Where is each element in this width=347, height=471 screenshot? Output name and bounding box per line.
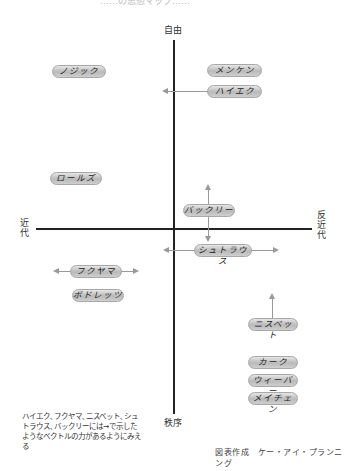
horizontal-axis: [36, 228, 312, 230]
arrow-down-icon: [205, 236, 211, 242]
figure-credit: 図表作成 ケー・アイ・プランニング: [215, 446, 347, 468]
vertical-axis: [173, 40, 175, 414]
axis-label-anti-modern: 反近代: [316, 210, 326, 240]
axis-label-order: 秩序: [164, 418, 182, 428]
arrow-left-icon: [53, 268, 59, 274]
thinker-hayek: ハイエク: [207, 85, 262, 98]
arrow-left-icon: [163, 247, 169, 253]
axis-label-modern: 近代: [19, 218, 29, 238]
arrow-right-icon: [133, 268, 139, 274]
thinker-mencken: メンケン: [207, 64, 262, 77]
arrow-up-icon: [269, 293, 275, 299]
axis-label-freedom: 自由: [164, 25, 182, 35]
thinker-rawls: ロールズ: [50, 172, 102, 185]
arrow-right-icon: [273, 247, 279, 253]
thinker-strauss: シュトラウス: [194, 244, 252, 257]
thinker-podhoretz: ボドレッツ: [72, 289, 124, 302]
arrow-up-icon: [205, 184, 211, 190]
nisbet-vector: [272, 298, 273, 318]
thinker-nisbet: ニスベット: [248, 318, 298, 331]
thinker-machen: メイチェン: [248, 392, 298, 405]
partial-title: ……の思想マップ……: [100, 0, 190, 7]
vector-note: ハイエク､フクヤマ､ニスベット､シュトラウス､バックリーには→で示したようなベク…: [22, 412, 142, 452]
thinker-buckley: バックリー: [183, 204, 235, 217]
thinker-kirk: カーク: [248, 356, 298, 369]
thinker-fukuyama: フクヤマ: [70, 265, 122, 278]
thinker-nozick: ノジック: [52, 65, 106, 78]
arrow-left-icon: [162, 88, 168, 94]
thinker-weaver: ウィーバー: [248, 374, 298, 387]
